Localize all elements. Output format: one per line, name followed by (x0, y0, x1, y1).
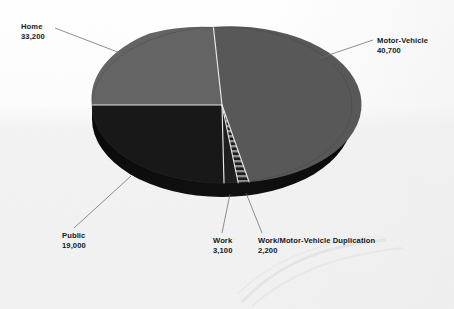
leader-line-public (74, 176, 131, 228)
label-work-value: 3,100 (213, 246, 233, 256)
label-public-value: 19,000 (62, 241, 86, 251)
leader-line-work (222, 194, 230, 233)
pie-slice-home-body[interactable] (92, 27, 222, 105)
label-duplication-value: 2,200 (258, 246, 375, 256)
leader-line-duplication (246, 193, 262, 233)
pie-top-face (92, 26, 362, 183)
label-public-name: Public (62, 231, 85, 240)
label-duplication: Work/Motor-Vehicle Duplication 2,200 (258, 236, 375, 255)
chart-page: Home 33,200 Motor-Vehicle 40,700 Public … (0, 0, 454, 309)
label-motor-vehicle-value: 40,700 (377, 46, 428, 56)
label-work-name: Work (213, 236, 232, 245)
label-motor-vehicle-name: Motor-Vehicle (377, 36, 428, 45)
label-public: Public 19,000 (62, 231, 86, 250)
leader-line-home (55, 28, 128, 56)
label-home: Home 33,200 (21, 22, 45, 41)
label-work: Work 3,100 (213, 236, 233, 255)
label-home-value: 33,200 (21, 32, 45, 42)
pie-slice-public[interactable] (92, 105, 224, 183)
label-duplication-name: Work/Motor-Vehicle Duplication (258, 236, 375, 245)
leader-line-motor (320, 40, 373, 58)
label-home-name: Home (21, 22, 43, 31)
label-motor-vehicle: Motor-Vehicle 40,700 (377, 36, 428, 55)
